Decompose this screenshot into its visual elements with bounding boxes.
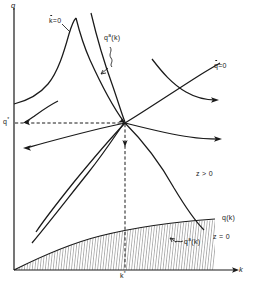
x-axis-label: k bbox=[239, 266, 243, 274]
saddle-path-lower-left bbox=[32, 123, 124, 243]
k-star-tick-label: k* bbox=[120, 272, 126, 279]
qdot-zero-right-branch bbox=[125, 63, 220, 123]
qa-of-k-lower-curve bbox=[125, 123, 204, 230]
qa-of-k-bottom-label: qa(k) bbox=[184, 238, 200, 245]
y-axis-label: q bbox=[11, 2, 15, 10]
saddle-path-lower-left-curve bbox=[32, 123, 124, 243]
qdot-zero-label: q=0 bbox=[214, 62, 227, 69]
qa-upper-path bbox=[91, 13, 125, 122]
z-positive-region-label: z > 0 bbox=[196, 170, 213, 177]
k-star-asterisk: * bbox=[124, 270, 126, 276]
trajectory-left-lower-path bbox=[26, 123, 125, 148]
trajectory-upper-right-path bbox=[152, 59, 216, 100]
kdot-symbol: k bbox=[49, 17, 53, 24]
kdot-zero-label: k=0 bbox=[49, 17, 61, 24]
qdot-symbol: q bbox=[214, 62, 218, 69]
kdot-leader-line bbox=[62, 24, 70, 32]
qdot-zero-left-branch bbox=[36, 123, 125, 232]
q-of-k-label: q(k) bbox=[222, 214, 235, 221]
phase-diagram-canvas bbox=[0, 0, 255, 283]
q-star-asterisk: * bbox=[7, 116, 9, 122]
trajectory-right-outward-path bbox=[125, 123, 219, 139]
kdot-zero-left-branch bbox=[14, 18, 76, 104]
hatched-region-z-zero bbox=[10, 215, 225, 277]
qa-of-k-top-label: qa(k) bbox=[104, 34, 120, 41]
qa-bottom-leader-squiggle bbox=[175, 241, 183, 242]
qa-bottom-argument: (k) bbox=[191, 238, 200, 245]
qa-top-leader-squiggle bbox=[110, 47, 112, 67]
trajectory-left-upper bbox=[23, 101, 58, 125]
trajectory-left-upper-arrow bbox=[23, 120, 30, 126]
qa-top-argument: (k) bbox=[111, 34, 120, 41]
z-zero-region-label: z = 0 bbox=[213, 233, 230, 240]
trajectory-left-lower bbox=[23, 123, 125, 151]
qdot-zero-isocline bbox=[36, 63, 220, 232]
qa-of-k-upper-curve bbox=[91, 13, 126, 124]
q-star-tick-label: q* bbox=[3, 118, 9, 125]
kdot-equals-zero: =0 bbox=[53, 17, 62, 24]
trajectory-left-lower-arrow bbox=[23, 145, 31, 151]
phase-diagram-figure: q k q* k* k=0 q=0 qa(k) qa(k) z > 0 z = … bbox=[0, 0, 255, 283]
trajectory-left-upper-path bbox=[25, 101, 58, 122]
qa-lower-path bbox=[125, 123, 204, 230]
trajectory-upper-right bbox=[152, 59, 219, 103]
qdot-equals-zero: =0 bbox=[218, 62, 227, 69]
